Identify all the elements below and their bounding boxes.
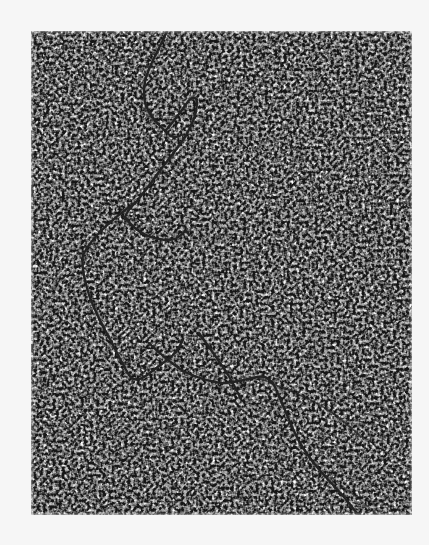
dark-grain [31,31,412,515]
micrograph-svg [31,31,412,515]
micrograph-image [31,31,412,515]
page [0,0,429,545]
